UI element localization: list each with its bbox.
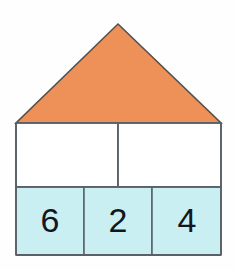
lower-cell-3-value: 4 (178, 201, 197, 239)
lower-cell-1-value: 6 (41, 201, 60, 239)
upper-cell-right (118, 123, 221, 187)
upper-cell-left (16, 123, 118, 187)
lower-cell-2-value: 2 (109, 201, 128, 239)
house-number-bond-figure: 6 2 4 (0, 0, 237, 270)
